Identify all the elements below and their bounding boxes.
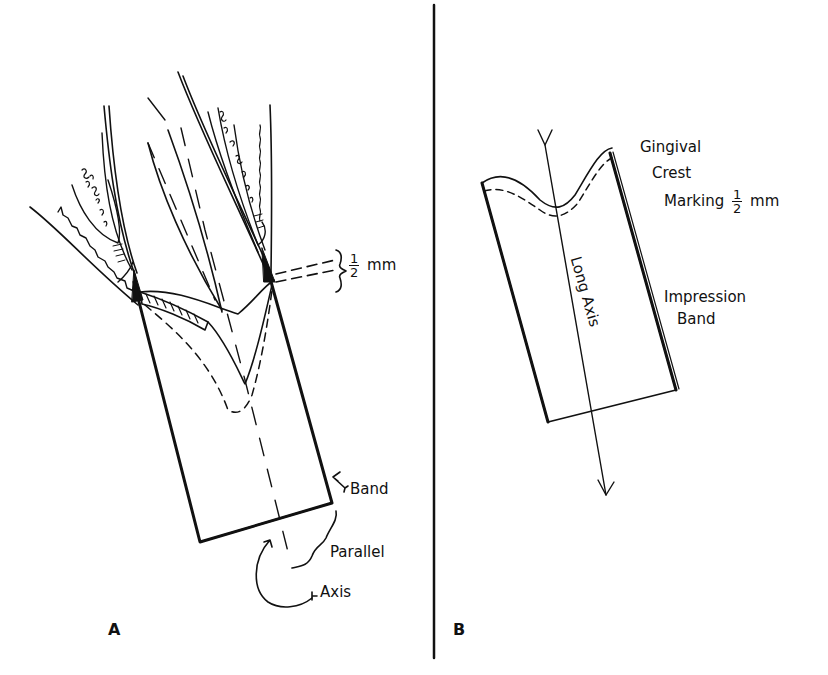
half-mm-label: 1 2 mm xyxy=(346,252,396,279)
marking-fraction: 1 2 xyxy=(732,188,742,215)
panel-letter-b: B xyxy=(453,622,465,638)
band-label: Band xyxy=(350,482,389,497)
panel-b-drawing xyxy=(482,130,679,495)
parallel-label: Parallel xyxy=(330,545,385,560)
marking-label: Marking 1 2 mm xyxy=(664,188,779,215)
dental-band-diagram xyxy=(0,0,828,675)
mm-unit: mm xyxy=(367,256,396,274)
panel-a-drawing xyxy=(30,72,348,607)
half-fraction: 1 2 xyxy=(349,252,359,279)
panel-letter-a: A xyxy=(108,622,120,638)
crest-label: Crest xyxy=(652,166,691,181)
impression-label: Impression xyxy=(664,290,746,305)
gingival-label: Gingival xyxy=(640,140,701,155)
impression-band-label: Band xyxy=(677,312,716,327)
axis-label: Axis xyxy=(320,585,351,600)
